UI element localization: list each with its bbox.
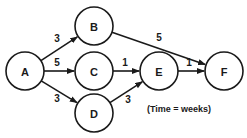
edge-weight-a-d: 3 — [54, 93, 60, 104]
edges-layer: 3535131 — [41, 32, 205, 105]
node-label: C — [90, 66, 98, 78]
node-label: A — [21, 66, 29, 78]
node-label: B — [90, 21, 98, 33]
node-f: F — [205, 52, 243, 90]
edge-weight-c-e: 1 — [122, 57, 128, 68]
edge-weight-b-f: 5 — [156, 32, 162, 43]
time-unit-note: (Time = weeks) — [147, 104, 211, 114]
node-c: C — [75, 52, 113, 90]
edge-weight-a-b: 3 — [54, 33, 60, 44]
node-label: F — [221, 66, 228, 78]
edge-weight-e-f: 1 — [186, 57, 192, 68]
node-e: E — [140, 52, 178, 90]
edge-weight-d-e: 3 — [125, 94, 131, 105]
network-diagram: 3535131 ABCDEF (Time = weeks) — [0, 0, 247, 138]
node-label: D — [90, 108, 98, 120]
node-a: A — [6, 52, 44, 90]
node-d: D — [75, 94, 113, 132]
node-b: B — [75, 7, 113, 45]
edge-weight-a-c: 5 — [54, 57, 60, 68]
node-label: E — [155, 66, 162, 78]
